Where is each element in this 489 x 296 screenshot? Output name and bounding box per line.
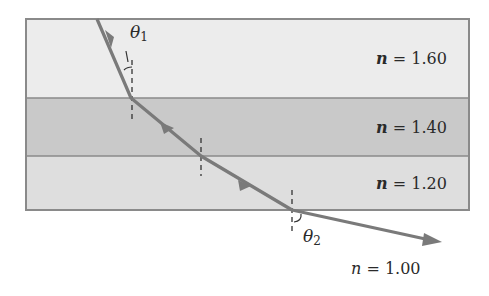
n-value: 1.00 — [385, 259, 421, 278]
n-value: 1.40 — [411, 118, 447, 137]
theta2-subscript: 2 — [313, 234, 321, 248]
equals-sign: = — [393, 49, 406, 68]
theta2-arc — [294, 214, 301, 222]
equals-sign: = — [366, 259, 379, 278]
theta2-label: θ2 — [303, 226, 321, 248]
n-symbol: n — [376, 118, 388, 137]
equals-sign: = — [393, 174, 406, 193]
label-n160: n = 1.60 — [376, 49, 447, 68]
ray-arrow-icon-end — [422, 233, 442, 246]
theta2-symbol: θ — [303, 226, 313, 246]
label-n140: n = 1.40 — [376, 118, 447, 137]
n-value: 1.60 — [411, 49, 447, 68]
diagram-canvas — [0, 0, 489, 296]
equals-sign: = — [393, 118, 406, 137]
theta1-label: θ1 — [130, 22, 148, 44]
refraction-diagram: θ1 θ2 n = 1.60 n = 1.40 n = 1.20 n = 1.0… — [0, 0, 489, 296]
n-value: 1.20 — [411, 174, 447, 193]
label-n100: n = 1.00 — [351, 259, 421, 278]
n-symbol: n — [351, 259, 361, 278]
theta1-subscript: 1 — [140, 30, 148, 44]
n-symbol: n — [376, 174, 388, 193]
theta1-symbol: θ — [130, 22, 140, 42]
n-symbol: n — [376, 49, 388, 68]
label-n120: n = 1.20 — [376, 174, 447, 193]
